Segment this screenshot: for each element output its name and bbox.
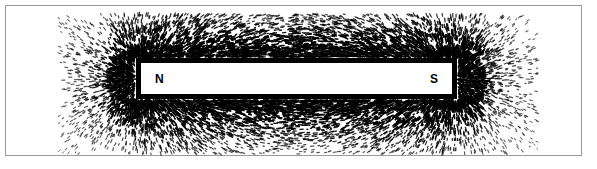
south-pole-label: S [430,73,438,85]
magnetic-field-figure: N S [0,0,597,169]
north-pole-label: N [155,73,164,85]
bar-magnet: N S [136,58,457,99]
